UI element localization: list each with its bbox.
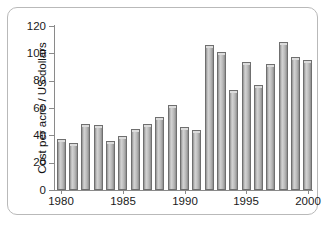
- bar-top-cap: [58, 140, 65, 142]
- bar-top-cap: [119, 137, 126, 139]
- bar-top-cap: [230, 91, 237, 93]
- x-tick: [246, 190, 247, 194]
- bar: [303, 60, 312, 190]
- bar: [81, 124, 90, 190]
- bar-top-cap: [82, 125, 89, 127]
- bar: [69, 143, 78, 190]
- x-axis-line: [54, 190, 313, 191]
- bar-top-cap: [243, 63, 250, 65]
- bar-top-cap: [132, 130, 139, 132]
- bar-top-cap: [304, 61, 311, 63]
- plot-area: [54, 26, 313, 190]
- bar: [291, 57, 300, 190]
- chart-figure: Cost per acre / US dollars 0204060801001…: [0, 0, 328, 233]
- bar: [131, 129, 140, 190]
- y-tick-label: 60: [33, 103, 46, 115]
- x-tick: [61, 190, 62, 194]
- x-tick-label: 1995: [233, 196, 259, 208]
- x-tick-label: 1990: [172, 196, 198, 208]
- bar-top-cap: [107, 142, 114, 144]
- bar: [205, 45, 214, 190]
- bar-top-cap: [169, 106, 176, 108]
- bar: [118, 136, 127, 190]
- bar: [180, 127, 189, 190]
- y-tick-label: 40: [33, 130, 46, 142]
- bar: [279, 42, 288, 190]
- x-tick: [185, 190, 186, 194]
- y-tick: 0: [49, 190, 54, 191]
- bar: [217, 52, 226, 190]
- bar: [192, 130, 201, 190]
- y-tick-label: 100: [27, 48, 46, 60]
- y-tick-label: 0: [40, 185, 46, 197]
- y-tick-label: 20: [33, 157, 46, 169]
- bar: [168, 105, 177, 190]
- bar-top-cap: [70, 144, 77, 146]
- bar: [94, 125, 103, 190]
- bar: [229, 90, 238, 190]
- bar-top-cap: [193, 131, 200, 133]
- bar: [266, 64, 275, 190]
- bar-top-cap: [280, 43, 287, 45]
- bar: [143, 124, 152, 190]
- y-tick-label: 120: [27, 21, 46, 33]
- bar-top-cap: [292, 58, 299, 60]
- x-tick: [123, 190, 124, 194]
- x-tick-label: 1985: [110, 196, 136, 208]
- x-tick-label: 2000: [295, 196, 321, 208]
- bar-top-cap: [144, 125, 151, 127]
- x-tick: [308, 190, 309, 194]
- bar: [254, 85, 263, 190]
- bar: [155, 117, 164, 190]
- bar-top-cap: [218, 53, 225, 55]
- bar: [106, 141, 115, 190]
- bar-top-cap: [181, 128, 188, 130]
- y-axis-title-container: Cost per acre / US dollars: [12, 26, 26, 190]
- x-tick-label: 1980: [48, 196, 74, 208]
- bar: [242, 62, 251, 190]
- bar-top-cap: [206, 46, 213, 48]
- bar-top-cap: [156, 118, 163, 120]
- bar-top-cap: [255, 86, 262, 88]
- bar: [57, 139, 66, 190]
- bar-top-cap: [95, 126, 102, 128]
- y-tick-label: 80: [33, 75, 46, 87]
- bar-top-cap: [267, 65, 274, 67]
